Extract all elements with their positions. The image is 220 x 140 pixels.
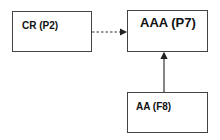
edges-layer [0,0,220,140]
